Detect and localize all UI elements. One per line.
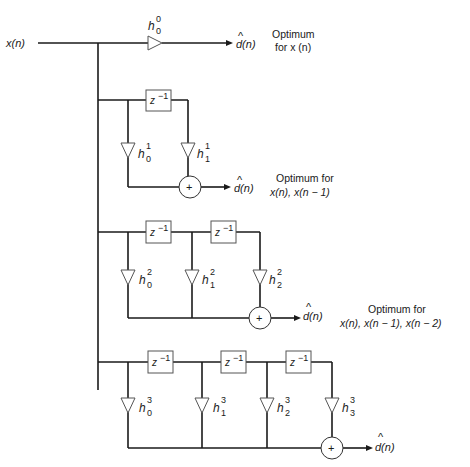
note-stage0: Optimum for x (n) — [272, 28, 315, 53]
arrow-head-icon — [224, 184, 231, 190]
svg-text:2: 2 — [277, 280, 282, 290]
coef-h0-3: h30 — [139, 395, 152, 418]
svg-text:z: z — [289, 357, 295, 368]
svg-text:h: h — [213, 401, 220, 415]
coef-h0-0: h 0 0 — [148, 14, 161, 36]
svg-text:d(n): d(n) — [303, 310, 323, 322]
note-stage2: Optimum forx(n), x(n − 1), x(n − 2) — [339, 303, 442, 329]
svg-text:Optimum: Optimum — [272, 28, 315, 40]
svg-text:Optimum for: Optimum for — [368, 303, 426, 315]
svg-text:1: 1 — [221, 408, 226, 418]
svg-text:0: 0 — [156, 14, 161, 24]
svg-text:−1: −1 — [160, 353, 170, 363]
output-label-stage0: ^ d(n) — [236, 30, 256, 50]
gain-triangle-h1-3 — [195, 398, 209, 413]
note-stage1: Optimum forx(n), x(n − 1) — [269, 172, 334, 198]
svg-text:2: 2 — [147, 267, 152, 277]
svg-text:1: 1 — [146, 141, 151, 151]
svg-text:−1: −1 — [158, 223, 168, 233]
svg-text:3: 3 — [285, 395, 290, 405]
svg-text:3: 3 — [350, 408, 355, 418]
svg-text:z: z — [224, 357, 230, 368]
coef-h3-3: h33 — [342, 395, 355, 418]
coef-h1-3: h31 — [213, 395, 226, 418]
output-label-stage3: ^d(n) — [375, 431, 395, 453]
plus-icon: + — [256, 312, 262, 324]
svg-text:z: z — [149, 227, 155, 238]
svg-text:h: h — [139, 401, 146, 415]
svg-text:0: 0 — [147, 408, 152, 418]
svg-text:3: 3 — [147, 395, 152, 405]
svg-text:1: 1 — [210, 280, 215, 290]
output-label-stage2: ^d(n) — [303, 301, 323, 322]
gain-triangle-h1-1 — [181, 143, 195, 158]
svg-text:d(n): d(n) — [375, 441, 395, 453]
svg-text:x(n), x(n − 1): x(n), x(n − 1) — [269, 186, 330, 198]
coef-h0-2: h20 — [139, 267, 152, 290]
coef-h2-3: h32 — [277, 395, 290, 418]
coef-h2-2: h22 — [269, 267, 282, 290]
stage-2: z−1 z−1 h20 h21 h22 + ^d(n) Optimum forx… — [98, 221, 442, 329]
fir-filter-diagram: x(n) h 0 0 ^ d(n) Optimum for x (n) z−1 … — [0, 0, 470, 467]
gain-triangle-h3-3 — [325, 398, 339, 413]
svg-text:h: h — [197, 147, 204, 161]
svg-text:1: 1 — [205, 154, 210, 164]
coef-h0-1: h10 — [138, 141, 151, 164]
svg-text:h: h — [138, 147, 145, 161]
svg-text:h: h — [342, 401, 349, 415]
gain-triangle-h0-0 — [148, 36, 162, 50]
gain-triangle-h2-2 — [253, 270, 267, 285]
svg-text:h: h — [269, 273, 276, 287]
svg-text:−1: −1 — [223, 223, 233, 233]
coef-h1-1: h11 — [197, 141, 210, 164]
svg-text:−1: −1 — [233, 353, 243, 363]
arrow-head-icon — [226, 40, 233, 46]
coef-h1-2: h21 — [202, 267, 215, 290]
svg-text:2: 2 — [277, 267, 282, 277]
svg-text:3: 3 — [350, 395, 355, 405]
gain-triangle-h2-3 — [260, 398, 274, 413]
svg-text:z: z — [151, 357, 157, 368]
svg-text:h: h — [202, 273, 209, 287]
svg-text:x(n), x(n − 1), x(n − 2): x(n), x(n − 1), x(n − 2) — [339, 317, 442, 329]
svg-text:Optimum for: Optimum for — [276, 172, 334, 184]
gain-triangle-h1-2 — [185, 270, 199, 285]
svg-text:z: z — [214, 227, 220, 238]
stage-3: z−1 z−1 z−1 h30 h31 h32 h33 + ^d(n) — [98, 351, 395, 459]
arrow-head-icon — [294, 315, 301, 321]
svg-text:0: 0 — [156, 26, 161, 36]
gain-triangle-h0-1 — [121, 143, 135, 158]
gain-triangle-h0-3 — [121, 398, 135, 413]
svg-text:h: h — [148, 19, 155, 33]
svg-text:−1: −1 — [158, 91, 168, 101]
input-label: x(n) — [5, 37, 25, 49]
svg-text:0: 0 — [146, 154, 151, 164]
arrow-head-icon — [366, 445, 373, 451]
svg-text:1: 1 — [205, 141, 210, 151]
svg-text:0: 0 — [147, 280, 152, 290]
svg-text:h: h — [139, 273, 146, 287]
svg-text:2: 2 — [285, 408, 290, 418]
svg-text:3: 3 — [221, 395, 226, 405]
svg-text:2: 2 — [210, 267, 215, 277]
plus-icon: + — [328, 442, 334, 454]
svg-text:d(n): d(n) — [234, 182, 254, 194]
svg-text:for x (n): for x (n) — [275, 41, 311, 53]
stage-1: z−1 h10 h11 + ^d(n) Optimum forx(n), x(n… — [98, 90, 334, 198]
plus-icon: + — [186, 181, 192, 193]
svg-text:d(n): d(n) — [236, 38, 256, 50]
output-label-stage1: ^d(n) — [234, 174, 254, 194]
svg-text:h: h — [277, 401, 284, 415]
svg-text:z: z — [149, 95, 155, 106]
svg-text:−1: −1 — [298, 353, 308, 363]
gain-triangle-h0-2 — [121, 270, 135, 285]
